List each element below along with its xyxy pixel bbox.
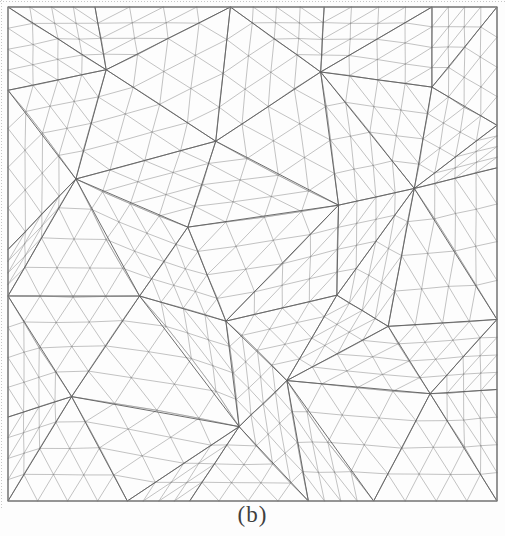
mesh-nodes-layer: [7, 6, 498, 502]
figure-page: (b): [0, 0, 505, 536]
figure-caption: (b): [0, 502, 505, 528]
mesh-svg: [0, 0, 505, 536]
fine-edges-layer: [8, 7, 497, 501]
